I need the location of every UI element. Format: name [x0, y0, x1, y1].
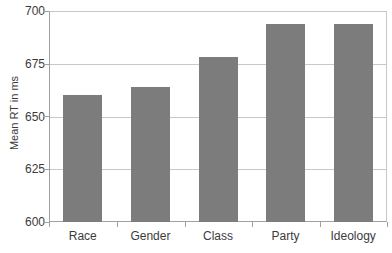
- x-tick-mark-2: [185, 222, 186, 227]
- x-axis-label-party: Party: [252, 230, 320, 242]
- y-tick-label-700: 700: [5, 5, 45, 17]
- bar-race[interactable]: [63, 95, 102, 222]
- x-axis-label-class: Class: [184, 230, 252, 242]
- bar-gender[interactable]: [131, 87, 170, 222]
- bar-class[interactable]: [199, 57, 238, 222]
- x-tick-mark-4: [320, 222, 321, 227]
- y-tick-label-675: 675: [5, 58, 45, 70]
- x-tick-mark-5: [387, 222, 388, 227]
- bars-layer: [49, 11, 387, 222]
- x-axis-label-ideology: Ideology: [319, 230, 387, 242]
- y-tick-label-625: 625: [5, 163, 45, 175]
- bar-ideology[interactable]: [334, 24, 373, 222]
- bar-party[interactable]: [266, 24, 305, 222]
- x-axis-label-gender: Gender: [117, 230, 185, 242]
- bar-chart: Mean RT in ms 700 675 650 625 600 Race G…: [0, 0, 392, 253]
- x-tick-mark-3: [252, 222, 253, 227]
- y-tick-label-650: 650: [5, 111, 45, 123]
- x-tick-mark-0: [49, 222, 50, 227]
- y-tick-label-600: 600: [5, 216, 45, 228]
- x-tick-mark-1: [117, 222, 118, 227]
- x-axis-label-race: Race: [49, 230, 117, 242]
